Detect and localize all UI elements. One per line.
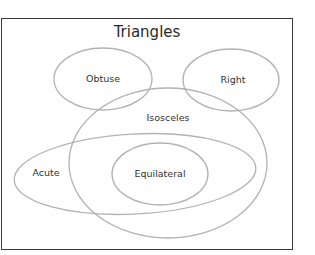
- venn-diagram: Triangles Obtuse Right Isosceles Acute E…: [0, 0, 315, 255]
- set-equilateral: Equilateral: [112, 143, 208, 205]
- obtuse-label: Obtuse: [86, 73, 120, 84]
- set-right: Right: [183, 49, 279, 111]
- right-label: Right: [220, 74, 245, 85]
- acute-label: Acute: [32, 167, 59, 178]
- set-obtuse: Obtuse: [54, 48, 152, 110]
- equilateral-label: Equilateral: [134, 168, 185, 179]
- diagram-title: Triangles: [113, 23, 181, 41]
- isosceles-label: Isosceles: [146, 112, 189, 123]
